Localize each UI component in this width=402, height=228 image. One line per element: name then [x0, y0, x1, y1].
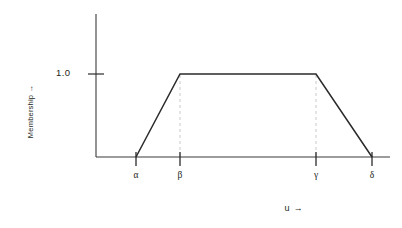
trapezoidal-membership-figure: 1.0 Membership → α β γ δ u → — [0, 0, 402, 228]
plot-canvas — [0, 0, 402, 228]
x-axis-tick-label-alpha: α — [126, 170, 146, 180]
y-axis-title: Membership → — [26, 64, 35, 160]
x-axis-title: u → — [268, 203, 320, 213]
x-axis-tick-label-delta: δ — [362, 170, 382, 180]
y-axis-tick-label-1.0: 1.0 — [56, 67, 70, 78]
x-axis-tick-label-gamma: γ — [306, 170, 326, 180]
x-axis-tick-label-beta: β — [170, 170, 190, 180]
membership-curve — [136, 74, 372, 157]
